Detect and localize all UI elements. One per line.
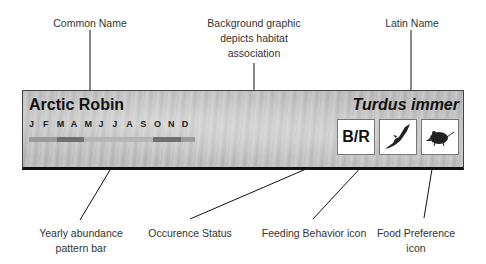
abundance-segment <box>112 137 126 142</box>
month-labels: JFMAMJJASOND <box>29 119 196 129</box>
month-label: M <box>57 119 71 129</box>
leader-food <box>424 163 433 218</box>
annotation-food: Food Preference icon <box>374 226 458 256</box>
abundance-segment <box>140 137 154 142</box>
month-label: N <box>168 119 182 129</box>
abundance-segment <box>167 137 181 142</box>
abundance-segment <box>181 137 195 142</box>
annotation-occurrence: Occurence Status <box>140 226 240 241</box>
abundance-segment <box>126 137 140 142</box>
annotation-feeding: Feeding Behavior icon <box>258 226 370 241</box>
occurrence-status-box: B/R <box>337 119 375 155</box>
abundance-segment <box>98 137 112 142</box>
food-preference-box <box>421 119 459 155</box>
species-card: Arctic Robin Turdus immer JFMAMJJASOND B… <box>22 90 464 170</box>
leader-abundance <box>80 170 110 220</box>
latin-name: Turdus immer <box>353 96 459 114</box>
annotation-line: pattern bar <box>26 241 136 256</box>
annotation-abundance-bar: Yearly abundance pattern bar <box>26 226 136 256</box>
annotation-line: association <box>194 46 314 61</box>
abundance-bar <box>29 137 195 142</box>
annotation-line: icon <box>374 241 458 256</box>
feeding-behavior-box <box>379 119 417 155</box>
month-label: F <box>43 119 57 129</box>
bird-in-flight-icon <box>383 123 413 151</box>
abundance-segment <box>43 137 57 142</box>
abundance-segment <box>57 137 71 142</box>
annotation-latin-name: Latin Name <box>370 16 454 31</box>
common-name: Arctic Robin <box>29 96 124 114</box>
leader-occurrence <box>190 163 320 219</box>
month-label: O <box>154 119 168 129</box>
month-label: J <box>29 119 43 129</box>
month-label: D <box>182 119 196 129</box>
abundance-segment <box>84 137 98 142</box>
month-label: M <box>85 119 99 129</box>
abundance-segment <box>153 137 167 142</box>
annotation-line: depicts habitat <box>194 31 314 46</box>
month-label: J <box>112 119 126 129</box>
month-label: A <box>126 119 140 129</box>
month-label: J <box>98 119 112 129</box>
annotation-common-name: Common Name <box>40 16 140 31</box>
annotation-line: Food Preference <box>374 226 458 241</box>
month-label: A <box>71 119 85 129</box>
occurrence-status: B/R <box>342 128 370 146</box>
rodent-icon <box>425 124 455 150</box>
annotation-line: Yearly abundance <box>26 226 136 241</box>
abundance-segment <box>29 137 43 142</box>
annotation-line: Background graphic <box>194 16 314 31</box>
abundance-segment <box>70 137 84 142</box>
icon-row: B/R <box>337 119 459 155</box>
annotation-background: Background graphic depicts habitat assoc… <box>194 16 314 61</box>
leader-feeding <box>313 163 365 219</box>
month-label: S <box>140 119 154 129</box>
